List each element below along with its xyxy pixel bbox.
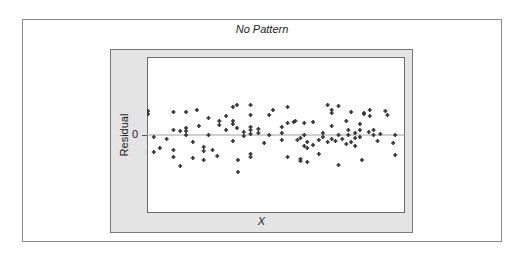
- data-point: [302, 121, 306, 125]
- data-point: [197, 124, 201, 128]
- data-point: [353, 131, 357, 135]
- data-point: [344, 119, 348, 123]
- data-point: [393, 153, 397, 157]
- data-point: [346, 133, 350, 137]
- data-point: [184, 129, 188, 133]
- data-point: [311, 120, 315, 124]
- data-point: [202, 158, 206, 162]
- data-point: [224, 114, 228, 118]
- x-axis-label: X: [110, 215, 413, 227]
- data-point: [184, 110, 188, 114]
- data-point: [231, 122, 235, 126]
- data-point: [358, 122, 362, 126]
- data-point: [249, 155, 253, 159]
- data-point: [152, 150, 156, 154]
- data-point: [317, 152, 321, 156]
- data-point: [330, 124, 334, 128]
- data-point: [280, 131, 284, 135]
- data-point: [206, 116, 210, 120]
- data-point: [224, 128, 228, 132]
- data-point: [152, 135, 156, 139]
- data-point: [385, 113, 389, 117]
- data-point: [158, 146, 162, 150]
- data-point: [206, 133, 210, 137]
- data-point: [326, 140, 330, 144]
- data-point: [211, 148, 215, 152]
- data-point: [305, 160, 309, 164]
- data-point: [344, 142, 348, 146]
- data-point: [368, 108, 372, 112]
- data-point: [202, 145, 206, 149]
- data-point: [358, 128, 362, 132]
- data-point: [235, 103, 239, 107]
- data-point: [217, 119, 221, 123]
- chart-title: No Pattern: [0, 23, 524, 35]
- data-point: [321, 131, 325, 135]
- data-point: [280, 138, 284, 142]
- data-point: [353, 144, 357, 148]
- data-point: [368, 114, 372, 118]
- data-point: [195, 108, 199, 112]
- data-point: [376, 139, 380, 143]
- data-point: [393, 133, 397, 137]
- data-point: [337, 163, 341, 167]
- data-point: [305, 140, 309, 144]
- data-point: [286, 121, 290, 125]
- data-point: [271, 108, 275, 112]
- data-point: [191, 140, 195, 144]
- data-point: [337, 133, 341, 137]
- data-point: [340, 137, 344, 141]
- data-point: [302, 133, 306, 137]
- data-point: [178, 129, 182, 133]
- data-point: [236, 158, 240, 162]
- y-tick-zero: 0: [132, 128, 138, 140]
- data-point: [171, 110, 175, 114]
- data-point: [267, 133, 271, 137]
- y-axis-label: Residual: [118, 114, 130, 157]
- data-point: [249, 128, 253, 132]
- data-point: [353, 136, 357, 140]
- data-point: [330, 137, 334, 141]
- data-point: [235, 126, 239, 130]
- data-point: [358, 135, 362, 139]
- data-point: [349, 110, 353, 114]
- data-point: [286, 105, 290, 109]
- data-point: [191, 156, 195, 160]
- data-point: [165, 137, 169, 141]
- data-point: [367, 130, 371, 134]
- data-point: [267, 113, 271, 117]
- data-point: [333, 139, 337, 143]
- data-point: [242, 130, 246, 134]
- data-point: [184, 133, 188, 137]
- data-point: [178, 164, 182, 168]
- data-point: [286, 155, 290, 159]
- data-point: [231, 139, 235, 143]
- data-point: [280, 125, 284, 129]
- data-point: [349, 140, 353, 144]
- data-point: [317, 138, 321, 142]
- data-point: [256, 131, 260, 135]
- data-point: [337, 104, 341, 108]
- data-point: [391, 141, 395, 145]
- data-point: [231, 105, 235, 109]
- data-point: [171, 155, 175, 159]
- data-point: [171, 128, 175, 132]
- data-point: [330, 111, 334, 115]
- data-point: [372, 133, 376, 137]
- data-point: [236, 170, 240, 174]
- data-point: [372, 128, 376, 132]
- data-point: [202, 149, 206, 153]
- data-point: [262, 141, 266, 145]
- data-point: [256, 127, 260, 131]
- data-point: [217, 123, 221, 127]
- data-point: [326, 103, 330, 107]
- data-point: [360, 158, 364, 162]
- data-point: [383, 109, 387, 113]
- data-point: [147, 112, 150, 116]
- data-point: [171, 148, 175, 152]
- data-point: [311, 143, 315, 147]
- data-point: [346, 128, 350, 132]
- data-point: [249, 113, 253, 117]
- scatter-points: [147, 57, 405, 213]
- data-point: [321, 135, 325, 139]
